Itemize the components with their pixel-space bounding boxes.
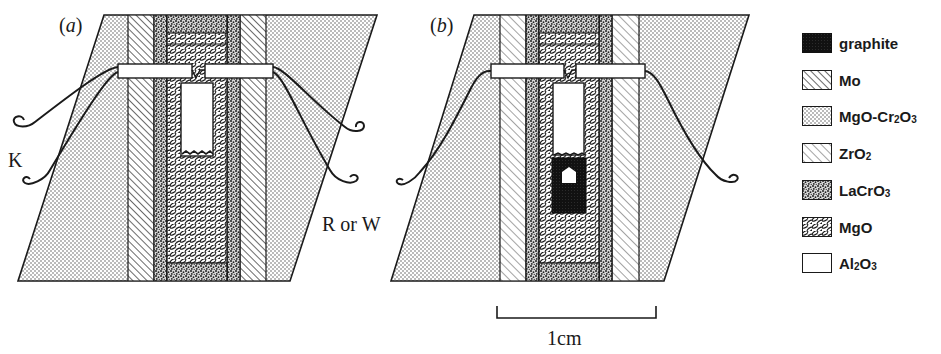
panel-a-label-letter: a bbox=[66, 14, 76, 36]
panel-b-label-close: ) bbox=[447, 14, 454, 36]
legend-label-mgo-text: MgO bbox=[839, 219, 872, 236]
legend-label-zro2-main: ZrO bbox=[839, 145, 866, 162]
legend-label-al2o3-main: Al bbox=[839, 255, 854, 272]
legend-label-al2o3-tail: O bbox=[860, 255, 872, 272]
panel-a-lacro3-left bbox=[154, 15, 167, 281]
panel-a-lacro3-right bbox=[227, 15, 240, 281]
panel-a-lacro3-top-plug bbox=[167, 15, 227, 33]
legend-label-mgo-cr2o3-main: MgO-Cr bbox=[839, 108, 894, 125]
panel-b-label: (b) bbox=[430, 14, 453, 37]
legend-label-zro2: ZrO2 bbox=[839, 143, 871, 167]
panel-b-tc-tube-left bbox=[491, 64, 564, 78]
panel-b-lacro3-bottom-plug bbox=[539, 263, 599, 281]
legend-label-lacro3-main: LaCrO bbox=[839, 182, 885, 199]
panel-a-heater-right bbox=[240, 15, 266, 281]
panel-a-tc-tube-left bbox=[118, 64, 192, 78]
legend-label-zro2-sub: 2 bbox=[866, 151, 872, 162]
panel-b-heater-left bbox=[500, 15, 526, 281]
panel-a-label-open: ( bbox=[59, 14, 66, 36]
panel-b-tc-tube-right bbox=[576, 64, 645, 78]
legend-label-mo-text: Mo bbox=[839, 72, 861, 89]
mo-swatch-icon bbox=[802, 70, 832, 90]
scale-bar-label: 1cm bbox=[547, 327, 581, 350]
legend-label-mgo-cr2o3-tail: O bbox=[900, 108, 912, 125]
legend-label-mo: Mo bbox=[839, 70, 861, 91]
panel-b-graphite-capsule bbox=[552, 158, 586, 213]
panel-a-heater-left bbox=[128, 15, 154, 281]
panel-a-label: (a) bbox=[59, 14, 82, 37]
panel-a-sample-capsule bbox=[181, 83, 213, 156]
mgo-cr2o3-swatch-icon bbox=[802, 106, 832, 126]
panel-a-label-close: ) bbox=[76, 14, 83, 36]
legend-label-al2o3: Al2O3 bbox=[839, 253, 877, 277]
panel-a-lacro3-bottom-plug bbox=[167, 263, 227, 281]
panel-b-label-open: ( bbox=[430, 14, 437, 36]
legend-label-mgo-cr2o3-sub2: 3 bbox=[911, 114, 917, 125]
panel-a bbox=[14, 15, 377, 281]
panel-b-al2o3-capsule bbox=[553, 83, 584, 155]
legend-label-mgo-cr2o3: MgO-Cr2O3 bbox=[839, 106, 917, 130]
legend-label-graphite: graphite bbox=[839, 33, 898, 54]
legend-label-lacro3-sub: 3 bbox=[885, 188, 891, 199]
panel-b-lacro3-left bbox=[526, 15, 539, 281]
panel-a-tc-tube-right bbox=[205, 64, 273, 78]
zro2-swatch-icon bbox=[802, 143, 832, 163]
panel-b-lacro3-right bbox=[599, 15, 612, 281]
scale-bar bbox=[497, 306, 656, 318]
legend-label-al2o3-sub2: 3 bbox=[871, 261, 877, 272]
thermocouple-label-k: K bbox=[8, 149, 22, 172]
panel-b bbox=[391, 15, 749, 281]
mgo-swatch-icon bbox=[802, 217, 832, 237]
panel-b-heater-right bbox=[612, 15, 639, 281]
graphite-swatch-icon bbox=[802, 33, 832, 53]
lacro3-swatch-icon bbox=[802, 180, 832, 200]
al2o3-swatch-icon bbox=[802, 253, 832, 273]
cell-assembly-figure bbox=[0, 0, 941, 354]
panel-b-lacro3-top-plug bbox=[539, 15, 599, 33]
legend-label-mgo: MgO bbox=[839, 217, 872, 238]
thermocouple-label-r-or-w: R or W bbox=[322, 213, 381, 236]
panel-b-label-letter: b bbox=[437, 14, 447, 36]
legend-label-lacro3: LaCrO3 bbox=[839, 180, 890, 204]
